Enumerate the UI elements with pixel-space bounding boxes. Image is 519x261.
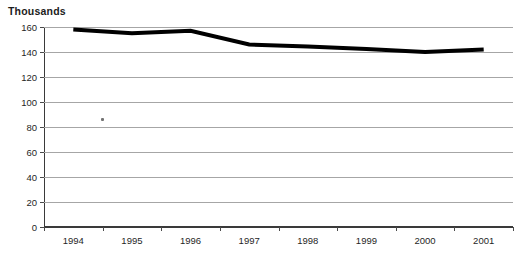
y-tick-label-140: 140: [21, 47, 37, 58]
x-tick-mark-2: [161, 227, 162, 231]
x-tick-label-1999: 1999: [356, 235, 377, 246]
x-tick-mark-7: [454, 227, 455, 231]
x-tick-label-1998: 1998: [297, 235, 318, 246]
y-tick-label-60: 60: [26, 147, 37, 158]
chart-title: Thousands: [8, 5, 66, 17]
x-tick-label-1995: 1995: [121, 235, 142, 246]
scan-speck: [101, 118, 104, 121]
data-series-line: [44, 27, 513, 227]
x-tick-mark-4: [279, 227, 280, 231]
line-chart-figure: Thousands 020406080100120140160 19941995…: [0, 0, 519, 261]
y-tick-label-80: 80: [26, 122, 37, 133]
x-tick-label-2001: 2001: [473, 235, 494, 246]
x-tick-mark-6: [396, 227, 397, 231]
y-tick-label-40: 40: [26, 172, 37, 183]
plot-area: 020406080100120140160 199419951996199719…: [44, 27, 513, 227]
x-tick-mark-3: [220, 227, 221, 231]
x-tick-mark-5: [337, 227, 338, 231]
x-tick-label-1997: 1997: [239, 235, 260, 246]
x-tick-mark-0: [44, 227, 45, 231]
x-tick-label-1994: 1994: [63, 235, 84, 246]
y-tick-label-20: 20: [26, 197, 37, 208]
y-tick-label-160: 160: [21, 22, 37, 33]
x-tick-mark-1: [103, 227, 104, 231]
y-tick-label-120: 120: [21, 72, 37, 83]
x-tick-label-2000: 2000: [414, 235, 435, 246]
y-tick-label-0: 0: [32, 222, 37, 233]
y-tick-label-100: 100: [21, 97, 37, 108]
x-tick-mark-8: [513, 227, 514, 231]
x-tick-label-1996: 1996: [180, 235, 201, 246]
